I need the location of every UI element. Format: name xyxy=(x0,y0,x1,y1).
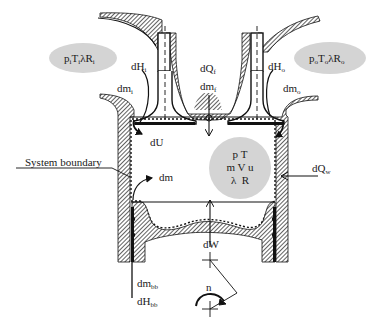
inlet-enthalpy-label: dHi xyxy=(131,60,146,76)
system-boundary-label: System boundary xyxy=(25,156,102,168)
cylinder-mass-label: dm xyxy=(159,171,173,183)
work-label: dW xyxy=(203,238,219,250)
crank-speed-label: n xyxy=(206,281,212,293)
blowby-enthalpy-label: dHbb xyxy=(137,295,157,311)
cylinder-mass-arrow xyxy=(133,178,152,200)
outlet-mass-arrow xyxy=(267,70,273,116)
cylinder-state-label: p T m V u λ R xyxy=(209,148,271,187)
outlet-state-label: poToλRo xyxy=(309,52,344,68)
system-boundary-leader xyxy=(16,168,130,177)
inlet-mass-arrow xyxy=(140,70,149,122)
inlet-port xyxy=(98,13,162,50)
cylinder-head-left xyxy=(100,94,134,262)
state-row-mass-volume-energy: m V u xyxy=(209,161,271,174)
state-row-lambda-gasconstant: λ R xyxy=(209,174,271,187)
fuel-heat-label: dQf xyxy=(200,62,216,78)
inlet-state-label: piTiλRi xyxy=(64,52,95,68)
blowby-mass-label: dmbb xyxy=(137,277,158,293)
fuel-mass-label: dmf xyxy=(200,80,216,96)
outlet-mass-label: dmo xyxy=(283,82,301,98)
outlet-enthalpy-label: dHo xyxy=(268,60,285,76)
wall-heat-label: dQw xyxy=(312,162,331,178)
internal-energy-label: dU xyxy=(150,136,163,148)
piston xyxy=(131,202,276,262)
inlet-mass-label: dmi xyxy=(117,82,133,98)
crank-mechanism xyxy=(196,252,237,317)
state-row-pressure-temperature: p T xyxy=(209,148,271,161)
